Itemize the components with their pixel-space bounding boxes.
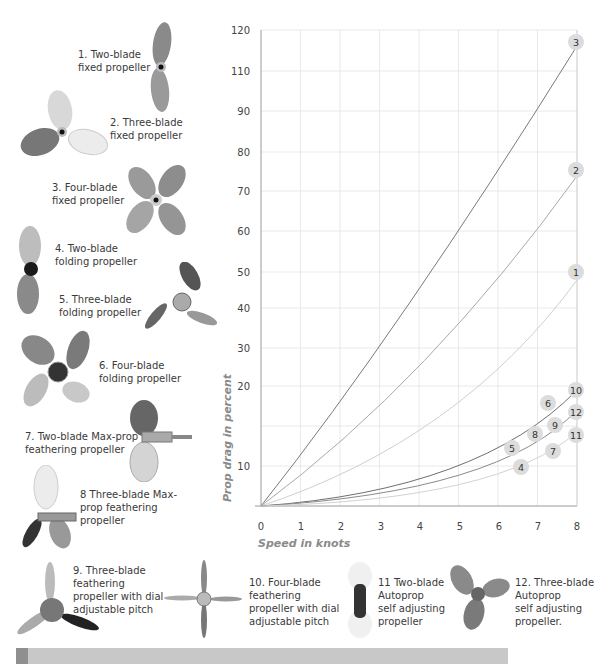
prop-drag-chart: 120 110 90 80 70 60 50 40 30 20 10 0 1 2… xyxy=(0,0,601,560)
propeller-12-image xyxy=(448,562,512,630)
badge-8: 8 xyxy=(527,426,543,442)
badge-6: 6 xyxy=(540,395,556,411)
x-tick: 0 xyxy=(258,521,264,532)
propeller-10-image xyxy=(164,560,242,638)
propeller-3-image xyxy=(122,165,190,235)
y-tick: 50 xyxy=(237,267,250,278)
y-tick: 120 xyxy=(231,25,250,36)
propeller-12-label: 12. Three-blade Autoprop self adjusting … xyxy=(515,576,594,628)
badge-10: 10 xyxy=(568,382,584,398)
x-tick: 8 xyxy=(574,521,580,532)
propeller-5-label: 5. Three-blade folding propeller xyxy=(59,293,141,319)
propeller-6-label: 6. Four-blade folding propeller xyxy=(99,359,181,385)
y-tick: 10 xyxy=(237,461,250,472)
badge-5: 5 xyxy=(504,440,520,456)
propeller-2-label: 2. Three-blade fixed propeller xyxy=(110,116,183,142)
y-axis-title: Prop drag in percent xyxy=(221,373,234,502)
bottom-bar-accent xyxy=(16,648,28,664)
badge-1: 1 xyxy=(568,264,584,280)
svg-text:9: 9 xyxy=(552,420,558,431)
svg-text:2: 2 xyxy=(573,165,579,176)
y-tick: 90 xyxy=(237,106,250,117)
badge-9: 9 xyxy=(547,417,563,433)
propeller-4-label: 4. Two-blade folding propeller xyxy=(55,242,137,268)
x-tick: 7 xyxy=(535,521,541,532)
svg-text:1: 1 xyxy=(573,267,579,278)
x-tick: 3 xyxy=(378,521,384,532)
propeller-9-label: 9. Three-blade feathering propeller with… xyxy=(73,564,163,616)
bottom-bar xyxy=(16,648,508,664)
y-tick: 60 xyxy=(237,226,250,237)
propeller-6-image xyxy=(16,330,96,410)
propeller-7-label: 7. Two-blade Max-prop feathering propell… xyxy=(25,430,138,456)
x-tick-labels: 0 1 2 3 4 5 6 7 8 xyxy=(258,521,580,532)
propeller-11-label: 11 Two-blade Autoprop self adjusting pro… xyxy=(378,576,445,628)
x-tick: 5 xyxy=(457,521,463,532)
svg-text:3: 3 xyxy=(573,37,579,48)
svg-text:8: 8 xyxy=(532,429,538,440)
svg-text:6: 6 xyxy=(545,398,551,409)
x-tick: 1 xyxy=(298,521,304,532)
propeller-3-label: 3. Four-blade fixed propeller xyxy=(52,181,124,207)
propeller-1-image xyxy=(146,22,176,112)
badge-2: 2 xyxy=(568,162,584,178)
y-tick: 40 xyxy=(237,303,250,314)
svg-text:7: 7 xyxy=(550,446,556,457)
x-tick: 4 xyxy=(417,521,423,532)
y-tick: 110 xyxy=(231,66,250,77)
propeller-2-image xyxy=(18,90,108,166)
x-tick: 6 xyxy=(496,521,502,532)
propeller-5-image xyxy=(140,262,220,334)
x-axis-title: Speed in knots xyxy=(258,537,351,550)
badge-4: 4 xyxy=(513,459,529,475)
svg-text:4: 4 xyxy=(518,462,524,473)
badge-12: 12 xyxy=(568,404,584,420)
propeller-4-image xyxy=(16,226,46,314)
x-tick: 2 xyxy=(338,521,344,532)
svg-text:12: 12 xyxy=(570,407,582,418)
badge-3: 3 xyxy=(568,34,584,50)
propeller-8-label: 8 Three-blade Max- prop feathering prope… xyxy=(80,488,177,527)
propeller-11-image xyxy=(344,562,376,638)
badge-7: 7 xyxy=(545,443,561,459)
propeller-1-label: 1. Two-blade fixed propeller xyxy=(78,48,150,74)
svg-text:11: 11 xyxy=(570,430,582,441)
y-tick: 70 xyxy=(237,186,250,197)
svg-text:10: 10 xyxy=(570,385,582,396)
svg-text:5: 5 xyxy=(509,443,515,454)
y-tick: 20 xyxy=(237,381,250,392)
y-tick: 80 xyxy=(237,147,250,158)
badge-11: 11 xyxy=(568,427,584,443)
propeller-10-label: 10. Four-blade feathering propeller with… xyxy=(249,576,339,628)
callout-badges: 3 2 1 10 6 12 9 11 8 5 7 4 xyxy=(504,34,584,475)
propeller-8-image xyxy=(20,465,82,550)
y-tick: 30 xyxy=(237,343,250,354)
